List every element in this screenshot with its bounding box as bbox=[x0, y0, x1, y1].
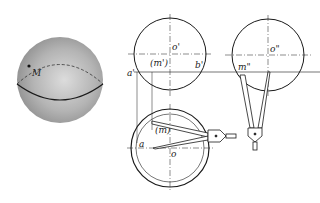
compass-icon-side bbox=[240, 72, 270, 150]
sphere-projection-diagram: M o' (m') a' b' o" m" (m) a o bbox=[0, 0, 320, 203]
label-m-double-prime: m" bbox=[238, 62, 251, 72]
compass-icon-top bbox=[152, 121, 236, 149]
point-m-dot bbox=[27, 64, 30, 67]
label-o-prime: o' bbox=[172, 42, 180, 52]
label-M: M bbox=[31, 68, 42, 78]
label-m-prime: (m') bbox=[150, 58, 169, 68]
label-o: o bbox=[171, 149, 177, 159]
label-a: a bbox=[139, 139, 144, 149]
label-b-prime: b' bbox=[195, 60, 203, 70]
shaded-sphere: M bbox=[17, 37, 103, 123]
label-a-prime: a' bbox=[127, 68, 135, 78]
diagram-svg: M o' (m') a' b' o" m" (m) a o bbox=[0, 0, 320, 203]
label-o-double-prime: o" bbox=[270, 44, 280, 54]
